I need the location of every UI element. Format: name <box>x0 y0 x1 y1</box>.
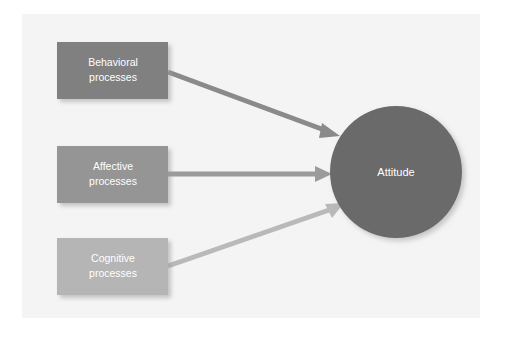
edge-behavioral-to-attitude <box>168 72 340 138</box>
diagram-figure: Attitude Behavioral processes Affective … <box>0 0 507 343</box>
node-behavioral[interactable]: Behavioral processes <box>57 42 168 99</box>
edge-affective-to-attitude <box>168 166 332 182</box>
edge-behavioral-line <box>168 72 327 131</box>
node-attitude[interactable]: Attitude <box>330 106 462 238</box>
affective-label-line1: Affective <box>93 160 133 172</box>
behavioral-label-line1: Behavioral <box>88 56 138 68</box>
edge-cognitive-line <box>168 209 332 266</box>
affective-label-line2: processes <box>89 175 137 187</box>
edge-cognitive-to-attitude <box>168 203 344 266</box>
node-cognitive[interactable]: Cognitive processes <box>57 238 168 295</box>
attitude-label: Attitude <box>377 166 414 178</box>
diagram-root: Attitude Behavioral processes Affective … <box>0 0 507 343</box>
node-affective[interactable]: Affective processes <box>57 146 168 203</box>
cognitive-label-line1: Cognitive <box>91 252 135 264</box>
edge-affective-arrowhead <box>315 166 332 182</box>
behavioral-label-line2: processes <box>89 71 137 83</box>
edge-behavioral-arrowhead <box>319 123 340 138</box>
cognitive-label-line2: processes <box>89 267 137 279</box>
